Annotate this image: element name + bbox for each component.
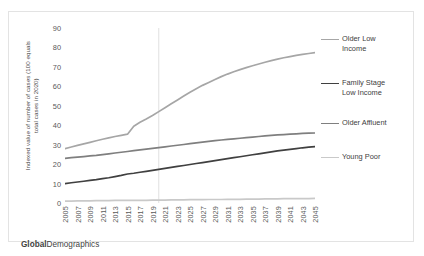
- x-tick-2005: 2005: [61, 206, 70, 223]
- x-tick-2007: 2007: [74, 206, 83, 223]
- chart-card: Indexed value of number of cases (100 eq…: [8, 11, 414, 242]
- y-tick-80: 80: [53, 43, 61, 52]
- x-tick-2025: 2025: [186, 206, 195, 223]
- x-tick-2027: 2027: [199, 206, 208, 223]
- brand-footer: GlobalDemographics: [21, 240, 99, 249]
- x-tick-2041: 2041: [286, 206, 295, 223]
- x-tick-2023: 2023: [174, 206, 183, 223]
- plot-area: [65, 28, 315, 203]
- x-tick-2017: 2017: [136, 206, 145, 223]
- x-tick-2021: 2021: [161, 206, 170, 223]
- x-tick-2039: 2039: [274, 206, 283, 223]
- y-tick-70: 70: [53, 62, 61, 71]
- x-tick-2011: 2011: [99, 206, 108, 222]
- y-axis-tick-labels: 0102030405060708090: [39, 28, 61, 203]
- y-axis-title: Indexed value of number of cases (100 eq…: [24, 21, 39, 191]
- legend-label: Older Affluent: [342, 118, 387, 128]
- x-tick-2037: 2037: [261, 206, 270, 223]
- x-tick-2029: 2029: [211, 206, 220, 223]
- y-tick-50: 50: [53, 101, 61, 110]
- y-tick-40: 40: [53, 121, 61, 130]
- x-tick-2045: 2045: [311, 206, 320, 223]
- series-line-older-affluent: [65, 133, 315, 158]
- legend-label: Older Low Income: [342, 34, 376, 53]
- legend-swatch-icon: [321, 123, 339, 124]
- x-tick-2043: 2043: [299, 206, 308, 223]
- series-line-family-stage-low-income: [65, 147, 315, 184]
- legend-swatch-icon: [321, 39, 339, 40]
- y-tick-30: 30: [53, 140, 61, 149]
- legend-swatch-icon: [321, 83, 339, 84]
- x-axis-tick-labels: 2005200720092011201320152017201920212023…: [65, 206, 315, 246]
- legend-item-young-poor[interactable]: Young Poor: [321, 152, 413, 162]
- legend-label: Family Stage Low Income: [342, 78, 385, 97]
- x-tick-2015: 2015: [124, 206, 133, 223]
- chart-legend: Older Low IncomeFamily Stage Low IncomeO…: [321, 34, 413, 184]
- line-chart-svg: [65, 28, 315, 203]
- y-tick-20: 20: [53, 160, 61, 169]
- x-tick-2033: 2033: [236, 206, 245, 223]
- legend-label: Young Poor: [342, 152, 380, 162]
- x-tick-2009: 2009: [86, 206, 95, 223]
- x-tick-2019: 2019: [149, 206, 158, 223]
- brand-bold: Global: [21, 240, 46, 249]
- legend-swatch-icon: [321, 157, 339, 158]
- series-line-young-poor: [65, 198, 315, 201]
- y-tick-60: 60: [53, 82, 61, 91]
- x-tick-2031: 2031: [224, 206, 233, 223]
- legend-item-family-stage-low-income[interactable]: Family Stage Low Income: [321, 78, 413, 97]
- legend-item-older-low-income[interactable]: Older Low Income: [321, 34, 413, 53]
- brand-rest: Demographics: [46, 240, 99, 249]
- y-tick-10: 10: [53, 179, 61, 188]
- chart-screenshot: Indexed value of number of cases (100 eq…: [0, 0, 424, 256]
- x-tick-2035: 2035: [249, 206, 258, 223]
- y-tick-90: 90: [53, 24, 61, 33]
- legend-item-older-affluent[interactable]: Older Affluent: [321, 118, 413, 128]
- x-tick-2013: 2013: [111, 206, 120, 223]
